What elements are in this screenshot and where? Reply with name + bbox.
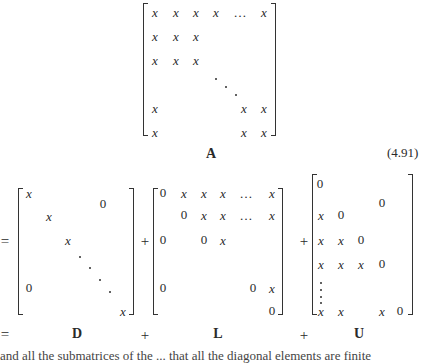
matrix-a-cell: x [152,54,158,67]
matrix-u-cell: x [318,234,324,247]
body-text-cropped: and all the submatrices of the ... that … [0,349,429,363]
matrix-l-cell: x [269,282,275,295]
matrix-u-cell: 0 [338,208,345,221]
matrix-d-lower-zero: 0 [26,281,33,294]
matrix-l-cell: x [220,209,226,222]
matrix-a-cell: x [261,126,267,139]
matrix-u-vdots [320,282,322,284]
matrix-d-cell: x [26,187,32,200]
matrix-d-cell: x [46,210,52,223]
matrix-u-vdots [320,289,322,291]
matrix-l-cell: 0 [201,233,208,246]
matrix-u-cell: 0 [317,177,324,190]
matrix-d-upper-zero: 0 [100,197,107,210]
matrix-a-ellipsis: … [234,6,247,19]
matrix-u-vdots [320,296,322,298]
plus-sign: + [141,328,149,343]
matrix-d-ddots [79,256,81,258]
plus-sign: + [300,328,308,343]
matrix-u-cell: x [338,258,344,271]
matrix-a-cell: x [173,54,179,67]
matrix-a-cell: x [193,6,199,19]
matrix-l-cell: x [201,187,207,200]
matrix-u-left-bracket [312,174,317,315]
matrix-u-cell: x [338,305,344,318]
matrix-u-cell: x [358,258,364,271]
matrix-a-cell: x [152,126,158,139]
matrix-u-cell: x [318,209,324,222]
matrix-a-cell: x [241,102,247,115]
matrix-l-cell: 0 [160,186,167,199]
matrix-d-ddots [89,267,91,269]
matrix-l-ellipsis: … [240,187,253,200]
matrix-u-upper-zero: 0 [379,196,386,209]
matrix-d-left-bracket [18,188,23,315]
matrix-l-cell: 0 [160,281,167,294]
matrix-a-cell: x [193,54,199,67]
matrix-u-cell: 0 [397,304,404,317]
matrix-a-cell: x [173,30,179,43]
matrix-d-ddots [109,291,111,293]
matrix-a-cell: x [261,102,267,115]
matrix-l-ellipsis: … [240,209,253,222]
matrix-l-cell: x [201,209,207,222]
matrix-a-right-bracket [271,3,276,136]
plus-sign: + [141,234,149,249]
matrix-a-cell: x [261,6,267,19]
matrix-l-cell: 0 [160,233,167,246]
matrix-u-cell: x [318,305,324,318]
matrix-a-cell: x [241,126,247,139]
matrix-l-label: L [213,327,222,341]
matrix-l-right-bracket [278,188,283,315]
matrix-a-ddots [215,78,217,80]
matrix-l-cell: 0 [269,304,276,317]
matrix-l-cell: x [269,187,275,200]
matrix-d-cell: x [120,305,126,318]
matrix-l-left-bracket [153,188,158,315]
matrix-u-cell: x [318,258,324,271]
matrix-u-right-bracket [408,174,413,315]
matrix-d-ddots [99,279,101,281]
matrix-l-cell: 0 [181,208,188,221]
plus-sign: + [300,234,308,249]
equation-number: (4.91) [387,146,418,159]
matrix-a-ddots [225,86,227,88]
matrix-a-cell: x [152,102,158,115]
matrix-a-cell: x [152,6,158,19]
matrix-l-cell: x [181,187,187,200]
matrix-a-cell: x [152,30,158,43]
matrix-a-cell: x [213,6,219,19]
matrix-a-label: A [206,147,216,161]
matrix-a-cell: x [173,6,179,19]
matrix-d-right-bracket [129,188,134,315]
matrix-l-cell: x [220,187,226,200]
matrix-d-label: D [72,327,82,341]
matrix-u-label: U [354,327,364,341]
matrix-u-cell: 0 [379,257,386,270]
matrix-u-cell: x [379,305,385,318]
matrix-l-cell: x [220,234,226,247]
matrix-l-cell: x [269,209,275,222]
matrix-a-cell: x [193,30,199,43]
equals-sign: = [1,234,9,249]
equals-sign: = [1,327,9,342]
matrix-u-cell: x [338,234,344,247]
matrix-a-ddots [235,94,237,96]
matrix-u-cell: 0 [358,233,365,246]
matrix-d-cell: x [65,234,71,247]
matrix-a-left-bracket [143,3,148,136]
matrix-l-cell: 0 [250,281,257,294]
